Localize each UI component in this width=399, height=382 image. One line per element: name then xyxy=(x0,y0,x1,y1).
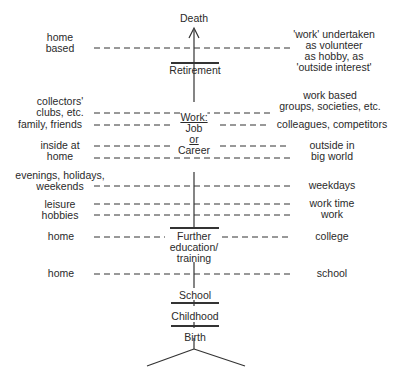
stage-retirement: Retirement xyxy=(169,65,220,77)
right-colleagues: colleagues, competitors xyxy=(277,119,387,131)
stage-further-3: training xyxy=(177,253,211,265)
right-workbased-2: groups, societies, etc. xyxy=(279,101,381,113)
stage-school: School xyxy=(179,290,211,302)
left-inside-2: home xyxy=(47,151,73,163)
right-volunteer-4: 'outside interest' xyxy=(296,62,371,74)
right-school: school xyxy=(317,268,347,280)
left-home-based-2: based xyxy=(46,43,75,55)
right-outside-2: big world xyxy=(311,151,353,163)
left-family: family, friends xyxy=(18,119,82,131)
left-hobbies: hobbies xyxy=(42,210,79,222)
stage-birth: Birth xyxy=(184,332,206,344)
left-evenings-2: weekends xyxy=(36,181,83,193)
right-weekdays: weekdays xyxy=(309,180,356,192)
stage-career: Career xyxy=(178,145,210,157)
left-home-further: home xyxy=(48,231,74,243)
right-work: work xyxy=(321,209,343,221)
left-collectors-2: clubs, etc. xyxy=(36,107,83,119)
stage-childhood: Childhood xyxy=(171,311,218,323)
left-home-school: home xyxy=(48,268,74,280)
right-college: college xyxy=(315,231,348,243)
stage-death: Death xyxy=(180,13,208,25)
